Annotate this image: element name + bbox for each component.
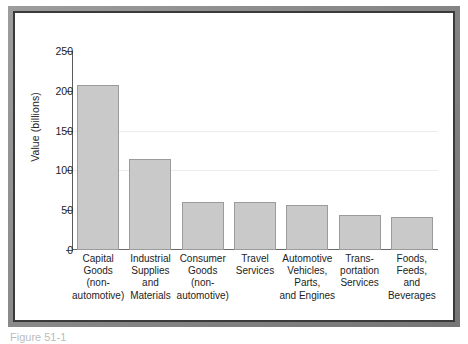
y-axis-tick-label: 100 (43, 165, 73, 175)
bar-slot (391, 51, 433, 250)
bar[interactable] (234, 202, 276, 250)
y-axis-tick-label: 150 (43, 126, 73, 136)
y-axis-tick-label: 50 (43, 205, 73, 215)
x-axis-category-label-line: Feeds, (381, 265, 443, 277)
x-axis-category-label-line: (non- (172, 277, 234, 289)
x-axis-category-label-line: Foods, (381, 253, 443, 265)
bar-slot (286, 51, 328, 250)
figure-root: 050100150200250 Value (billions) Capital… (0, 0, 468, 344)
y-axis-tick-label: 200 (43, 86, 73, 96)
figure-inner-border: 050100150200250 Value (billions) Capital… (13, 11, 455, 322)
bar[interactable] (77, 85, 119, 250)
x-axis-labels-group: CapitalGoods(non-automotive)IndustrialSu… (72, 253, 438, 328)
x-axis-category-label-line: automotive) (172, 290, 234, 302)
figure-outer-frame: 050100150200250 Value (billions) Capital… (8, 6, 460, 327)
bar[interactable] (391, 217, 433, 250)
y-axis-title: Value (billions) (29, 62, 41, 192)
x-axis-category-label-line: and Engines (276, 290, 338, 302)
bars-group (72, 51, 438, 250)
bar-slot (129, 51, 171, 250)
bar[interactable] (339, 215, 381, 250)
x-axis-category-label-line: Beverages (381, 290, 443, 302)
figure-caption-partial: Figure 51-1 (10, 331, 250, 344)
bar[interactable] (286, 205, 328, 250)
bar-slot (182, 51, 224, 250)
bar-chart-plot-area: 050100150200250 Value (billions) Capital… (15, 13, 453, 320)
x-axis-category-label-line: and (381, 277, 443, 289)
bar-slot (339, 51, 381, 250)
bar[interactable] (182, 202, 224, 250)
x-axis-category-label: Foods,Feeds,andBeverages (381, 253, 443, 302)
bar[interactable] (129, 159, 171, 250)
bar-slot (234, 51, 276, 250)
y-axis-tick-label: 250 (43, 46, 73, 56)
bar-slot (77, 51, 119, 250)
